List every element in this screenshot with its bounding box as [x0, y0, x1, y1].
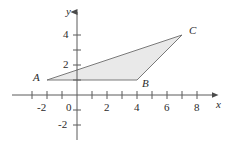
- x-axis: [12, 91, 212, 99]
- x-tick-label-minus2: -2: [37, 102, 46, 113]
- x-tick-label-8: 8: [194, 102, 200, 113]
- x-tick-label-4: 4: [134, 102, 140, 113]
- vertex-label-c: C: [189, 25, 196, 36]
- x-tick-label-2: 2: [104, 102, 110, 113]
- x-tick-label-6: 6: [164, 102, 170, 113]
- vertex-label-b: B: [142, 78, 149, 89]
- origin-label: 0: [66, 102, 72, 113]
- figure-canvas: -2 2 4 6 8 0 4 2 -2 x y A B C: [0, 0, 234, 148]
- y-axis-name: y: [66, 6, 71, 17]
- y-tick-label-minus2: -2: [58, 119, 67, 130]
- vertex-label-a: A: [33, 72, 40, 83]
- y-tick-label-2: 2: [63, 59, 69, 70]
- y-tick-label-4: 4: [63, 29, 69, 40]
- x-axis-name: x: [216, 99, 221, 110]
